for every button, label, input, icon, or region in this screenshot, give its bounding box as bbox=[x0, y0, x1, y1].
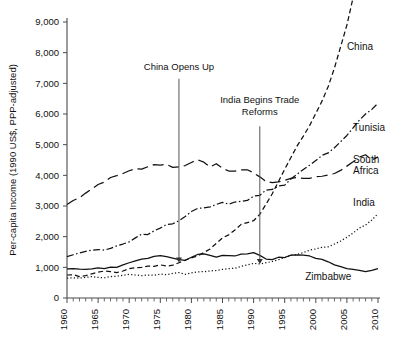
y-tick-label: 0 bbox=[54, 292, 59, 303]
y-tick-label: 4,000 bbox=[35, 170, 59, 181]
line-chart: 01,0002,0003,0004,0005,0006,0007,0008,00… bbox=[0, 0, 406, 352]
y-tick-label: 8,000 bbox=[35, 47, 59, 58]
y-tick-label: 1,000 bbox=[35, 262, 59, 273]
series-label-india: India bbox=[353, 197, 375, 208]
x-tick-label: 2000 bbox=[307, 309, 318, 330]
x-tick-label: 1960 bbox=[58, 309, 69, 330]
plot-background bbox=[0, 0, 406, 352]
series-label-zimbabwe: Zimbabwe bbox=[305, 271, 352, 282]
chart-container: 01,0002,0003,0004,0005,0006,0007,0008,00… bbox=[0, 0, 406, 352]
x-tick-label: 1965 bbox=[89, 309, 100, 330]
annotation-text-china-opens-up: China Opens Up bbox=[144, 61, 214, 72]
x-tick-label: 1975 bbox=[151, 309, 162, 330]
y-tick-label: 2,000 bbox=[35, 231, 59, 242]
x-tick-label: 2010 bbox=[369, 309, 380, 330]
y-axis-title: Per-capita Income (1990 US$, PPP-adjuste… bbox=[7, 64, 18, 256]
y-tick-label: 7,000 bbox=[35, 78, 59, 89]
series-label-china: China bbox=[347, 41, 374, 52]
y-axis-title-text: Per-capita Income (1990 US$, PPP-adjuste… bbox=[7, 64, 18, 256]
x-tick-label: 1990 bbox=[245, 309, 256, 330]
x-tick-label: 1970 bbox=[120, 309, 131, 330]
y-tick-label: 9,000 bbox=[35, 16, 59, 27]
x-tick-label: 1985 bbox=[214, 309, 225, 330]
series-label-south-africa: SouthAfrica bbox=[353, 154, 379, 176]
x-tick-label: 1995 bbox=[276, 309, 287, 330]
y-tick-label: 5,000 bbox=[35, 139, 59, 150]
x-tick-label: 2005 bbox=[338, 309, 349, 330]
series-label-tunisia: Tunisia bbox=[353, 122, 385, 133]
x-tick-label: 1980 bbox=[182, 309, 193, 330]
y-tick-label: 6,000 bbox=[35, 108, 59, 119]
y-tick-label: 3,000 bbox=[35, 200, 59, 211]
